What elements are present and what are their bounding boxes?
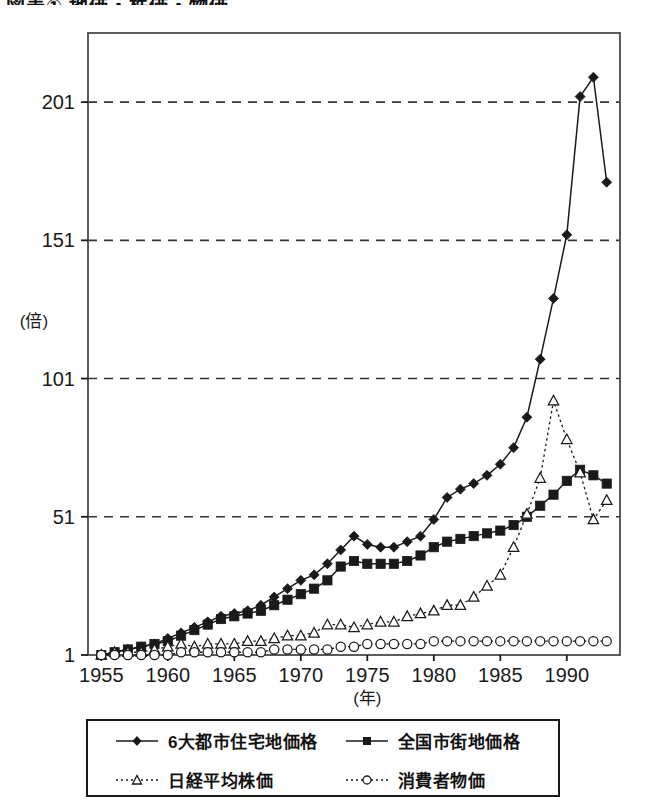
- series-triangle: [96, 395, 612, 659]
- data-point-square: [482, 529, 491, 538]
- data-point-triangle: [375, 616, 385, 626]
- data-point-square: [429, 543, 438, 552]
- x-tick-label: 1970: [279, 664, 324, 686]
- data-point-square: [589, 471, 598, 480]
- data-point-circle: [256, 648, 265, 657]
- legend-label: 6大都市住宅地価格: [168, 728, 318, 753]
- data-point-diamond: [362, 539, 372, 549]
- data-point-diamond: [575, 92, 585, 102]
- data-point-diamond: [296, 575, 306, 585]
- data-point-circle: [376, 639, 385, 648]
- data-point-diamond: [562, 230, 572, 240]
- x-axis-label: (年): [353, 689, 381, 708]
- chart-legend: 6大都市住宅地価格 全国市街地価格 日経平均株価: [86, 719, 560, 797]
- data-point-circle: [363, 639, 372, 648]
- x-tick-label: 1960: [146, 664, 191, 686]
- data-point-circle: [190, 648, 199, 657]
- data-point-triangle: [282, 630, 292, 640]
- data-point-circle: [216, 648, 225, 657]
- data-point-square: [363, 559, 372, 568]
- data-point-square: [283, 595, 292, 604]
- data-point-square: [190, 626, 199, 635]
- data-point-diamond: [376, 542, 386, 552]
- y-tick-label: 51: [53, 506, 75, 528]
- data-point-diamond: [402, 537, 412, 547]
- data-point-circle: [150, 650, 159, 659]
- data-point-circle: [177, 648, 186, 657]
- data-point-triangle: [469, 592, 479, 602]
- data-point-triangle: [269, 633, 279, 643]
- data-point-diamond: [389, 542, 399, 552]
- data-point-circle: [203, 648, 212, 657]
- data-point-diamond: [442, 492, 452, 502]
- data-point-triangle: [588, 514, 598, 524]
- x-tick-label: 1990: [545, 664, 590, 686]
- triangle-dotted-line-icon: [114, 772, 160, 788]
- y-tick-label: 151: [42, 229, 75, 251]
- legend-row-1: 6大都市住宅地価格 全国市街地価格: [88, 721, 558, 760]
- data-point-circle: [137, 650, 146, 659]
- data-point-circle: [589, 637, 598, 646]
- data-point-square: [243, 609, 252, 618]
- data-point-circle: [562, 637, 571, 646]
- data-point-triangle: [402, 611, 412, 621]
- data-point-circle: [416, 639, 425, 648]
- data-point-square: [230, 612, 239, 621]
- data-point-diamond: [602, 177, 612, 187]
- series-circle: [97, 637, 612, 660]
- data-point-circle: [522, 637, 531, 646]
- data-point-triangle: [562, 434, 572, 444]
- square-line-icon: [344, 733, 390, 749]
- data-point-circle: [243, 648, 252, 657]
- data-point-circle: [456, 637, 465, 646]
- data-point-square: [296, 590, 305, 599]
- data-point-triangle: [322, 619, 332, 629]
- data-point-square: [496, 526, 505, 535]
- legend-label: 日経平均株価: [168, 767, 273, 792]
- data-point-circle: [163, 650, 172, 659]
- data-point-square: [549, 490, 558, 499]
- diamond-line-icon: [114, 733, 160, 749]
- series-diamond: [96, 72, 611, 660]
- legend-row-2: 日経平均株価 消費者物価: [88, 760, 558, 799]
- data-point-triangle: [336, 619, 346, 629]
- data-point-circle: [283, 645, 292, 654]
- data-point-circle: [509, 637, 518, 646]
- data-point-circle: [110, 650, 119, 659]
- data-point-circle: [323, 645, 332, 654]
- data-point-diamond: [549, 293, 559, 303]
- data-point-square: [456, 534, 465, 543]
- data-point-circle: [310, 645, 319, 654]
- figure-root: 図表① 地価・株価・物価 151101151201(倍)195519601965…: [0, 0, 646, 808]
- data-point-square: [349, 556, 358, 565]
- data-point-circle: [349, 642, 358, 651]
- data-point-circle: [270, 645, 279, 654]
- data-point-square: [376, 559, 385, 568]
- data-point-square: [310, 584, 319, 593]
- data-point-circle: [403, 639, 412, 648]
- x-tick-label: 1980: [412, 664, 457, 686]
- x-tick-label: 1985: [478, 664, 523, 686]
- series-line: [101, 77, 606, 655]
- legend-item-zenkoku-shigaichi: 全国市街地価格: [334, 721, 558, 760]
- data-point-square: [256, 606, 265, 615]
- data-point-triangle: [309, 627, 319, 637]
- data-point-diamond: [455, 484, 465, 494]
- data-point-diamond: [588, 72, 598, 82]
- legend-label: 消費者物価: [398, 767, 486, 792]
- data-point-square: [389, 559, 398, 568]
- x-tick-label: 1975: [345, 664, 390, 686]
- series-line: [101, 401, 606, 655]
- y-tick-label: 101: [42, 368, 75, 390]
- data-point-square: [270, 601, 279, 610]
- data-point-diamond: [535, 354, 545, 364]
- data-point-diamond: [522, 412, 532, 422]
- data-point-triangle: [482, 580, 492, 590]
- data-point-square: [509, 520, 518, 529]
- data-point-square: [536, 501, 545, 510]
- data-point-circle: [496, 637, 505, 646]
- data-point-diamond: [283, 584, 293, 594]
- data-point-square: [336, 562, 345, 571]
- data-point-circle: [123, 650, 132, 659]
- legend-item-6dai-toshi: 6大都市住宅地価格: [88, 721, 334, 760]
